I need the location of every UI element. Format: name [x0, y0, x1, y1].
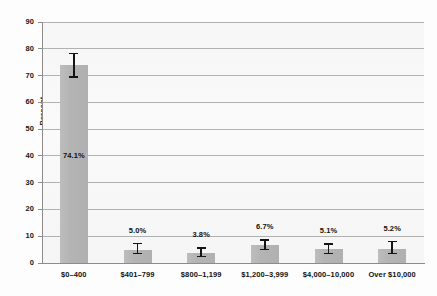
gridline	[42, 102, 424, 103]
y-tick-mark	[38, 182, 42, 183]
gridline	[42, 236, 424, 237]
gridline	[42, 182, 424, 183]
y-tick-mark	[38, 102, 42, 103]
error-bar-cap-lower	[69, 76, 78, 78]
x-axis-line	[42, 263, 425, 264]
gridline	[42, 75, 424, 76]
gridline	[42, 48, 424, 49]
bar-value-label: 5.0%	[108, 226, 168, 235]
error-bar-cap-lower	[197, 256, 206, 258]
error-bar-cap-upper	[324, 243, 333, 245]
y-tick-label: 30	[6, 178, 34, 187]
gridline	[42, 209, 424, 210]
error-bar-cap-upper	[133, 243, 142, 245]
bar-value-label: 6.7%	[235, 222, 295, 231]
gridline	[42, 22, 424, 23]
error-bar-cap-upper	[197, 247, 206, 249]
error-bar-cap-lower	[133, 253, 142, 255]
y-tick-mark	[38, 129, 42, 130]
bar-value-label: 5.2%	[362, 224, 422, 233]
bar-chart: Percent 0102030405060708090 74.1%5.0%3.8…	[0, 0, 437, 296]
y-tick-label: 90	[6, 17, 34, 26]
y-tick-mark	[38, 155, 42, 156]
y-tick-mark	[38, 209, 42, 210]
y-tick-label: 60	[6, 97, 34, 106]
error-bar-cap-lower	[260, 249, 269, 251]
error-bar-cap-upper	[260, 239, 269, 241]
y-tick-mark	[38, 236, 42, 237]
y-tick-mark	[38, 75, 42, 76]
bar-value-label: 74.1%	[44, 151, 104, 160]
error-bar-line	[73, 53, 75, 78]
bar-value-label: 5.1%	[299, 226, 359, 235]
error-bar-cap-lower	[388, 253, 397, 255]
y-tick-mark	[38, 263, 42, 264]
y-tick-label: 40	[6, 151, 34, 160]
y-tick-label: 10	[6, 231, 34, 240]
y-tick-label: 70	[6, 71, 34, 80]
bar	[60, 65, 88, 263]
y-tick-label: 50	[6, 124, 34, 133]
y-tick-label: 20	[6, 204, 34, 213]
y-tick-label: 80	[6, 44, 34, 53]
bar-value-label: 3.8%	[171, 230, 231, 239]
x-tick-label: Over $10,000	[347, 270, 437, 279]
error-bar-cap-upper	[388, 241, 397, 243]
y-tick-mark	[38, 48, 42, 49]
gridline	[42, 129, 424, 130]
y-tick-mark	[38, 22, 42, 23]
y-axis-line	[42, 22, 43, 264]
error-bar-cap-lower	[324, 253, 333, 255]
y-tick-label: 0	[6, 258, 34, 267]
error-bar-cap-upper	[69, 53, 78, 55]
